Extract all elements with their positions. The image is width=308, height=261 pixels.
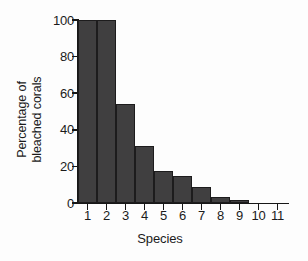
x-axis-tick-label: 2: [103, 209, 110, 222]
y-axis-tick-mark: [72, 19, 78, 21]
x-axis-tick-label: 6: [179, 209, 186, 222]
bar: [230, 200, 249, 203]
y-axis-tick-mark: [72, 92, 78, 94]
bar: [116, 104, 135, 203]
y-axis-tick-labels: 020406080100: [40, 0, 74, 261]
x-axis-tick-label: 1: [84, 209, 91, 222]
bar-chart-figure: Percentage of bleached corals 0204060801…: [0, 0, 308, 261]
bar: [192, 187, 211, 203]
x-axis-tick-label: 5: [160, 209, 167, 222]
y-axis-tick-mark: [72, 129, 78, 131]
bar: [211, 197, 230, 203]
x-axis-title: Species: [0, 231, 308, 246]
y-axis-tick-mark: [72, 202, 78, 204]
bar: [78, 20, 97, 203]
y-axis-tick-label: 100: [53, 14, 74, 27]
x-axis-tick-label: 9: [236, 209, 243, 222]
y-axis-tick-mark: [72, 56, 78, 58]
x-axis-tick-label: 3: [122, 209, 129, 222]
y-axis-tick-mark: [72, 166, 78, 168]
x-axis-tick-label: 11: [271, 209, 284, 222]
plot-area: [78, 20, 287, 203]
y-axis-title-line-1: Percentage of: [15, 40, 30, 200]
bar: [173, 176, 192, 203]
x-axis-tick-label: 7: [198, 209, 205, 222]
bar: [154, 171, 173, 203]
bar: [97, 20, 116, 203]
x-axis-title-text: Species: [137, 231, 183, 246]
x-axis-tick-label: 4: [141, 209, 148, 222]
bar: [135, 146, 154, 203]
x-axis-tick-label: 10: [252, 209, 266, 222]
x-axis-tick-label: 8: [217, 209, 224, 222]
